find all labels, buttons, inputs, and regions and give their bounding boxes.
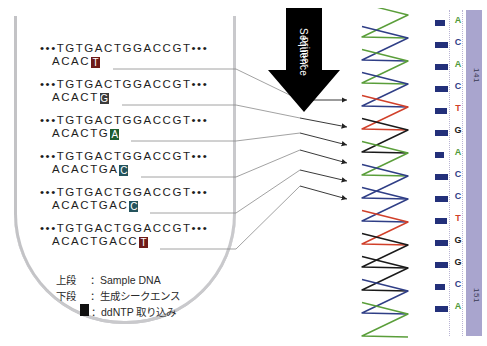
legend-lower-sep: ：	[90, 288, 100, 304]
reaction-row: •••TGTGACTGGACCGT•••ACACTGAC	[40, 150, 208, 176]
basecall-peak-bar	[435, 306, 448, 312]
basecall-peak-bar	[435, 196, 448, 202]
basecall-peak-bar	[435, 108, 447, 114]
legend-upper-sep: ：	[90, 272, 100, 288]
reaction-row: •••TGTGACTGGACCGT•••ACACT	[40, 42, 208, 68]
figure-canvas: •••TGTGACTGGACCGT•••ACACT•••TGTGACTGGACC…	[0, 0, 487, 346]
basecall-letter: G	[452, 125, 464, 135]
basecall-peak-bar	[435, 240, 448, 246]
basecall-peak-bar	[435, 42, 448, 48]
synthesized-sequence-text: ACACTGACC	[52, 235, 138, 247]
basecall-letter: T	[452, 213, 464, 223]
basecall-panel: ACACTGACCTGGCA 141 151	[432, 10, 482, 336]
basecall-letter: C	[452, 169, 464, 179]
electropherogram-trace	[358, 8, 414, 338]
basecall-peak-bar	[435, 64, 448, 70]
basecall-letter: C	[452, 37, 464, 47]
ddntp-terminator-base: C	[129, 201, 138, 212]
position-label-141: 141	[467, 68, 481, 83]
reaction-row: •••TGTGACTGGACCGT•••ACACTGA	[40, 114, 208, 140]
sample-dna-sequence: •••TGTGACTGGACCGT•••	[40, 150, 208, 162]
position-label-151: 151	[467, 288, 481, 303]
sample-dna-sequence: •••TGTGACTGGACCGT•••	[40, 42, 208, 54]
basecall-peak-bar	[435, 86, 448, 92]
ddntp-terminator-base: T	[91, 57, 100, 68]
basecall-letter: T	[452, 103, 464, 113]
basecall-letter: A	[452, 15, 464, 25]
trace-peak	[362, 303, 408, 338]
ddntp-swatch-icon	[80, 304, 89, 316]
reaction-row: •••TGTGACTGGACCGT•••ACACTG	[40, 78, 208, 104]
reaction-row: •••TGTGACTGGACCGT•••ACACTGACCT	[40, 222, 208, 248]
legend-upper-key: 上段	[56, 272, 90, 288]
basecall-letter: A	[452, 147, 464, 157]
basecall-peak-bar	[435, 130, 448, 136]
basecall-row: G	[432, 256, 482, 278]
basecall-letter: A	[452, 59, 464, 69]
legend-ddntp-sep: ：	[91, 304, 101, 320]
synthesized-sequence: ACACTGA	[40, 127, 208, 140]
basecall-row: C	[432, 80, 482, 102]
basecall-row: T	[432, 102, 482, 124]
basecall-row: T	[432, 212, 482, 234]
synthesized-sequence-text: ACACTG	[52, 127, 109, 139]
basecall-letter: C	[452, 191, 464, 201]
synthesized-sequence-text: ACACT	[52, 91, 99, 103]
sample-dna-sequence: •••TGTGACTGGACCGT•••	[40, 222, 208, 234]
trace-peak	[362, 8, 408, 38]
legend-row-ddntp: ： ddNTP 取り込み	[56, 304, 226, 320]
basecall-row: C	[432, 168, 482, 190]
basecall-row: C	[432, 36, 482, 58]
ddntp-terminator-base: C	[119, 165, 128, 176]
basecall-letter: G	[452, 235, 464, 245]
synthesized-sequence-text: ACACTGAC	[52, 199, 128, 211]
basecall-peak-bar	[435, 218, 447, 224]
synthesized-sequence: ACACTGAC	[40, 163, 208, 176]
synthesized-sequence-text: ACAC	[52, 55, 90, 67]
ddntp-terminator-base: T	[139, 237, 148, 248]
synthesized-sequence-text: ACACTGA	[52, 163, 118, 175]
legend-lower-value: 生成シークエンス	[100, 288, 180, 304]
basecall-letter: A	[452, 301, 464, 311]
sample-dna-sequence: •••TGTGACTGGACCGT•••	[40, 186, 208, 198]
basecall-row: A	[432, 14, 482, 36]
legend-row-upper: 上段 ： Sample DNA	[56, 272, 226, 288]
basecall-row: A	[432, 146, 482, 168]
reaction-row: •••TGTGACTGGACCGT•••ACACTGACC	[40, 186, 208, 212]
synthesized-sequence: ACACTGACCT	[40, 235, 208, 248]
synthesized-sequence: ACACTGACC	[40, 199, 208, 212]
sequence-primer-arrow	[268, 8, 340, 112]
legend-upper-value: Sample DNA	[100, 272, 161, 288]
basecall-peak-bar	[435, 284, 445, 290]
basecall-row: G	[432, 124, 482, 146]
basecall-letter: C	[452, 279, 464, 289]
ddntp-terminator-base: G	[100, 93, 109, 104]
sample-dna-sequence: •••TGTGACTGGACCGT•••	[40, 78, 208, 90]
basecall-row: A	[432, 300, 482, 322]
basecall-row: G	[432, 234, 482, 256]
legend-lower-key: 下段	[56, 288, 90, 304]
ddntp-terminator-base: A	[110, 129, 119, 140]
legend-ddntp-value: ddNTP 取り込み	[101, 304, 176, 320]
basecall-peak-bar	[435, 262, 448, 268]
legend: 上段 ： Sample DNA 下段 ： 生成シークエンス ： ddNTP 取り…	[56, 272, 226, 320]
legend-row-lower: 下段 ： 生成シークエンス	[56, 288, 226, 304]
basecall-peak-bar	[435, 152, 444, 158]
basecall-letter: G	[452, 257, 464, 267]
sample-dna-sequence: •••TGTGACTGGACCGT•••	[40, 114, 208, 126]
basecall-row: C	[432, 190, 482, 212]
basecall-peak-bar	[435, 174, 448, 180]
basecall-letter: C	[452, 81, 464, 91]
synthesized-sequence: ACACT	[40, 55, 208, 68]
basecall-peak-bar	[435, 20, 445, 26]
synthesized-sequence: ACACTG	[40, 91, 208, 104]
